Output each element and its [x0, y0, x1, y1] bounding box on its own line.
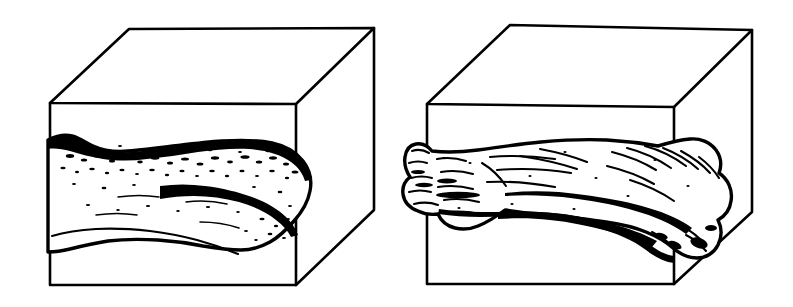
panel-left [48, 28, 374, 285]
figure-root: Fossil bone in block diagram Two line-dr… [0, 0, 793, 307]
illustration-canvas: Fossil bone in block diagram Two line-dr… [0, 0, 793, 307]
left-bone [48, 135, 311, 254]
